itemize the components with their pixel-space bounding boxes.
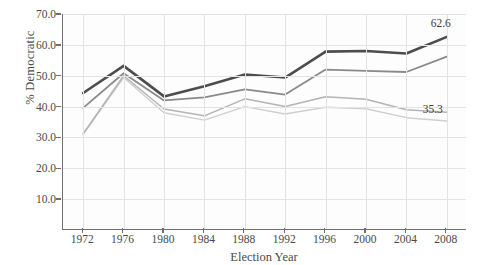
- data-label-62.6: 62.6: [431, 17, 451, 29]
- y-tick-label: 30.0: [10, 131, 56, 143]
- x-tick-mark: [243, 228, 244, 233]
- gridline-vertical: [204, 14, 205, 229]
- gridline-vertical: [83, 14, 84, 229]
- gridline-vertical: [406, 14, 407, 229]
- x-tick-mark: [284, 228, 285, 233]
- x-tick-mark: [364, 228, 365, 233]
- y-tick-mark: [56, 106, 61, 107]
- y-tick-mark: [56, 198, 61, 199]
- y-tick-mark: [56, 13, 61, 14]
- y-tick-label: 50.0: [10, 70, 56, 82]
- y-tick-label: 70.0: [10, 8, 56, 20]
- y-tick-mark: [56, 44, 61, 45]
- x-axis-tick-labels: 1972197619801984198819921996200020042008: [62, 233, 466, 251]
- y-tick-mark: [56, 168, 61, 169]
- y-tick-label: 40.0: [10, 101, 56, 113]
- gridline-vertical: [447, 14, 448, 229]
- x-tick-mark: [405, 228, 406, 233]
- x-axis-title: Election Year: [62, 250, 466, 265]
- y-tick-label: 60.0: [10, 39, 56, 51]
- data-label-35.3: 35.3: [423, 103, 443, 115]
- y-tick-label: 20.0: [10, 162, 56, 174]
- x-tick-label: 2008: [416, 233, 476, 245]
- gridline-vertical: [326, 14, 327, 229]
- x-tick-mark: [122, 228, 123, 233]
- gridline-vertical: [124, 14, 125, 229]
- y-tick-label: 10.0: [10, 193, 56, 205]
- x-tick-mark: [203, 228, 204, 233]
- x-tick-mark: [324, 228, 325, 233]
- gridline-vertical: [285, 14, 286, 229]
- x-tick-mark: [82, 228, 83, 233]
- y-axis-tick-labels: 10.020.030.040.050.060.070.0: [6, 14, 56, 230]
- line-series-series-2: [83, 57, 447, 108]
- gridline-vertical: [245, 14, 246, 229]
- y-tick-mark: [56, 137, 61, 138]
- gridline-vertical: [366, 14, 367, 229]
- x-tick-mark: [445, 228, 446, 233]
- line-series-series-3: [83, 76, 447, 134]
- gridline-vertical: [164, 14, 165, 229]
- y-tick-mark: [56, 75, 61, 76]
- plot-area: 62.635.3: [62, 14, 466, 230]
- x-tick-mark: [162, 228, 163, 233]
